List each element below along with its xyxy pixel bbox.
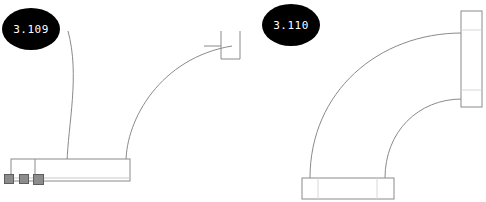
bracket-3109: [221, 31, 240, 59]
callout-bubble-3109[interactable]: 3.109: [2, 8, 60, 50]
drawing-canvas: 3.109 3.110: [0, 0, 486, 202]
pipe-wall-right-3109: [126, 46, 232, 162]
flange-horizontal-3110: [302, 178, 394, 199]
bolt-square: [4, 174, 14, 184]
callout-label-3110: 3.110: [273, 20, 309, 31]
bolt-square: [33, 174, 44, 185]
figure-3109: [11, 31, 240, 181]
callout-label-3109: 3.109: [13, 24, 49, 35]
technical-drawing-svg: [0, 0, 486, 202]
figure-3110: [302, 11, 482, 199]
bolt-square: [19, 174, 29, 184]
pipe-wall-outer-3110: [310, 33, 462, 178]
callout-bubble-3110[interactable]: 3.110: [262, 4, 320, 46]
flange-vertical-3110: [461, 11, 482, 107]
pipe-wall-inner-3110: [385, 99, 462, 178]
pipe-wall-left-3109: [67, 31, 73, 163]
